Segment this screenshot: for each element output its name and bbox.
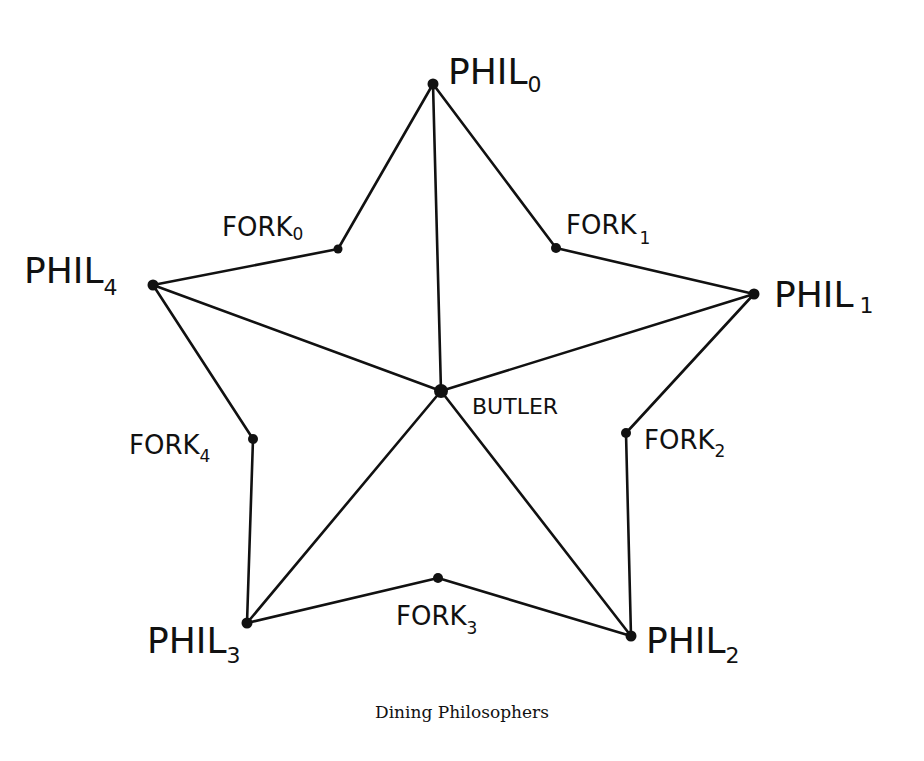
- label-phil2-sub: 2: [725, 643, 739, 668]
- node-phil4: [148, 280, 159, 291]
- nodes: [148, 79, 760, 642]
- edge-phil3-butler: [247, 391, 441, 623]
- label-phil4-main: PHIL: [24, 250, 103, 291]
- label-phil0: PHIL0: [448, 51, 541, 97]
- node-fork1: [551, 243, 561, 253]
- label-fork3-main: FORK: [396, 601, 467, 631]
- node-phil1: [749, 289, 760, 300]
- node-fork3: [433, 573, 443, 583]
- edge-phil1-fork1: [556, 248, 754, 294]
- node-fork4: [248, 434, 258, 444]
- label-phil3-sub: 3: [226, 643, 240, 668]
- edge-phil0-butler: [433, 84, 441, 391]
- label-fork4: FORK4: [129, 430, 210, 466]
- label-fork2-main: FORK: [644, 425, 715, 455]
- label-fork1-main: FORK: [566, 210, 637, 240]
- label-butler: BUTLER: [472, 394, 558, 419]
- label-fork2-sub: 2: [715, 441, 726, 461]
- label-fork4-sub: 4: [200, 446, 211, 466]
- label-phil0-main: PHIL: [448, 51, 527, 92]
- dining-philosophers-diagram: PHIL0 PHIL1 PHIL2 PHIL3 PHIL4 FORK0 FORK…: [0, 0, 924, 761]
- label-fork2: FORK2: [644, 425, 725, 461]
- label-phil2-main: PHIL: [646, 620, 725, 661]
- label-fork0-main: FORK: [222, 212, 293, 242]
- label-phil4-sub: 4: [103, 275, 117, 300]
- label-phil1-main: PHIL: [774, 274, 853, 315]
- label-fork4-main: FORK: [129, 430, 200, 460]
- node-fork2: [621, 428, 631, 438]
- node-phil3: [242, 618, 253, 629]
- label-fork3: FORK3: [396, 601, 477, 638]
- label-phil4: PHIL4: [24, 250, 117, 300]
- edge-phil1-butler: [441, 294, 754, 391]
- label-fork1: FORK1: [566, 210, 650, 248]
- label-phil1: PHIL1: [774, 274, 873, 318]
- node-butler: [434, 384, 448, 398]
- label-phil3: PHIL3: [147, 620, 240, 668]
- edge-phil0-fork1: [433, 84, 556, 248]
- node-phil0: [428, 79, 439, 90]
- edges: [153, 84, 754, 636]
- edge-phil4-fork0: [153, 249, 338, 285]
- node-phil2: [626, 631, 637, 642]
- label-phil0-sub: 0: [527, 72, 541, 97]
- edge-phil3-fork4: [247, 439, 253, 623]
- label-phil3-main: PHIL: [147, 620, 226, 661]
- label-fork0: FORK0: [222, 212, 303, 244]
- label-phil1-sub: 1: [859, 293, 873, 318]
- labels: PHIL0 PHIL1 PHIL2 PHIL3 PHIL4 FORK0 FORK…: [24, 51, 873, 668]
- edge-phil2-butler: [441, 391, 631, 636]
- label-fork0-sub: 0: [293, 224, 304, 244]
- label-fork3-sub: 3: [467, 618, 478, 638]
- label-fork1-sub: 1: [640, 228, 651, 248]
- node-fork0: [334, 245, 343, 254]
- edge-phil4-butler: [153, 285, 441, 391]
- diagram-caption: Dining Philosophers: [375, 702, 549, 722]
- edge-phil4-fork4: [153, 285, 253, 439]
- label-phil2: PHIL2: [646, 620, 739, 668]
- edge-phil2-fork2: [626, 433, 631, 636]
- edge-phil0-fork0: [338, 84, 433, 249]
